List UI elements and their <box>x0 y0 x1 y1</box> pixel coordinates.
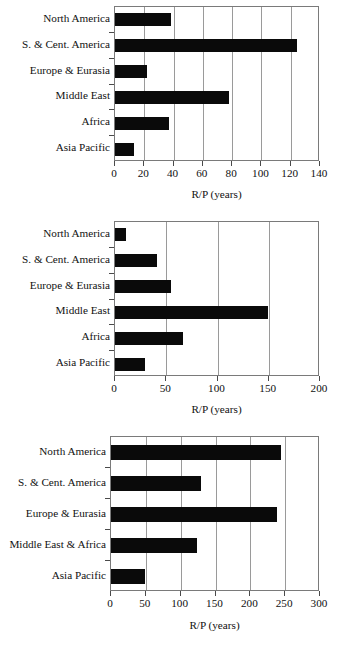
bar <box>115 254 157 267</box>
gridline <box>203 7 204 160</box>
category-label-column: North AmericaS. & Cent. AmericaEurope & … <box>0 430 106 645</box>
bar <box>115 117 169 130</box>
gridline <box>285 437 286 590</box>
gridline <box>166 222 167 375</box>
bar <box>115 306 268 319</box>
category-label: Europe & Eurasia <box>0 508 106 519</box>
x-axis-title: R/P (years) <box>114 404 319 415</box>
x-axis-tick <box>114 161 115 166</box>
bar <box>115 280 171 293</box>
category-label: S. & Cent. America <box>0 39 110 50</box>
x-axis-tick <box>145 591 146 596</box>
plot-area <box>114 6 319 161</box>
x-axis-tick <box>180 591 181 596</box>
category-label: S. & Cent. America <box>0 254 110 265</box>
x-axis-tick <box>319 376 320 381</box>
x-axis-title: R/P (years) <box>114 189 319 200</box>
category-label: Middle East & Africa <box>0 539 106 550</box>
x-axis-title: R/P (years) <box>110 620 319 631</box>
bar <box>115 91 229 104</box>
category-label-column: North AmericaS. & Cent. AmericaEurope & … <box>0 215 110 430</box>
x-axis-tick <box>215 591 216 596</box>
x-axis-tick-label: 200 <box>299 383 338 394</box>
x-axis-tick <box>217 376 218 381</box>
category-label: Asia Pacific <box>0 142 110 153</box>
x-axis-tick <box>319 591 320 596</box>
x-axis-tick <box>231 161 232 166</box>
bar <box>111 476 201 491</box>
x-axis-tick <box>284 591 285 596</box>
category-label: Asia Pacific <box>0 357 110 368</box>
x-axis-tick <box>268 376 269 381</box>
category-label: Africa <box>0 116 110 127</box>
gridline <box>218 222 219 375</box>
x-axis-tick <box>110 591 111 596</box>
category-label: North America <box>0 228 110 239</box>
category-label: Africa <box>0 331 110 342</box>
x-axis-tick-label: 300 <box>299 598 338 609</box>
x-axis-tick <box>249 591 250 596</box>
gridline <box>269 222 270 375</box>
category-label: Middle East <box>0 305 110 316</box>
bar <box>115 143 134 156</box>
plot-area <box>114 221 319 376</box>
bar <box>111 569 145 584</box>
plot-area <box>110 436 319 591</box>
x-axis-tick <box>173 161 174 166</box>
bar <box>115 228 126 241</box>
category-label: S. & Cent. America <box>0 477 106 488</box>
category-label: Europe & Eurasia <box>0 280 110 291</box>
bar <box>115 13 171 26</box>
x-axis-tick-label: 140 <box>299 168 338 179</box>
gridline <box>232 7 233 160</box>
bar-chart-panel-1: 020406080100120140North AmericaS. & Cent… <box>0 0 338 215</box>
category-label-column: North AmericaS. & Cent. AmericaEurope & … <box>0 0 110 215</box>
bar <box>111 445 281 460</box>
gridline <box>174 7 175 160</box>
gridline <box>291 7 292 160</box>
x-axis-tick <box>260 161 261 166</box>
x-axis-tick <box>290 161 291 166</box>
gridline <box>261 7 262 160</box>
x-axis-tick-label: 150 <box>248 383 288 394</box>
x-axis-tick <box>143 161 144 166</box>
gridline <box>144 7 145 160</box>
category-label: Middle East <box>0 90 110 101</box>
x-axis-tick <box>114 376 115 381</box>
category-label: Asia Pacific <box>0 570 106 581</box>
bar-chart-panel-2: 050100150200North AmericaS. & Cent. Amer… <box>0 215 338 430</box>
category-label: North America <box>0 446 106 457</box>
bar <box>111 507 277 522</box>
x-axis-tick-label: 50 <box>145 383 185 394</box>
bar <box>111 538 197 553</box>
category-label: Europe & Eurasia <box>0 65 110 76</box>
bar <box>115 65 147 78</box>
x-axis-tick <box>319 161 320 166</box>
x-axis-tick-label: 100 <box>197 383 237 394</box>
bar-chart-panel-3: 050100150200250300North AmericaS. & Cent… <box>0 430 338 645</box>
x-axis-tick <box>165 376 166 381</box>
bar <box>115 358 145 371</box>
bar <box>115 332 183 345</box>
bar <box>115 39 297 52</box>
category-label: North America <box>0 13 110 24</box>
x-axis-tick <box>202 161 203 166</box>
